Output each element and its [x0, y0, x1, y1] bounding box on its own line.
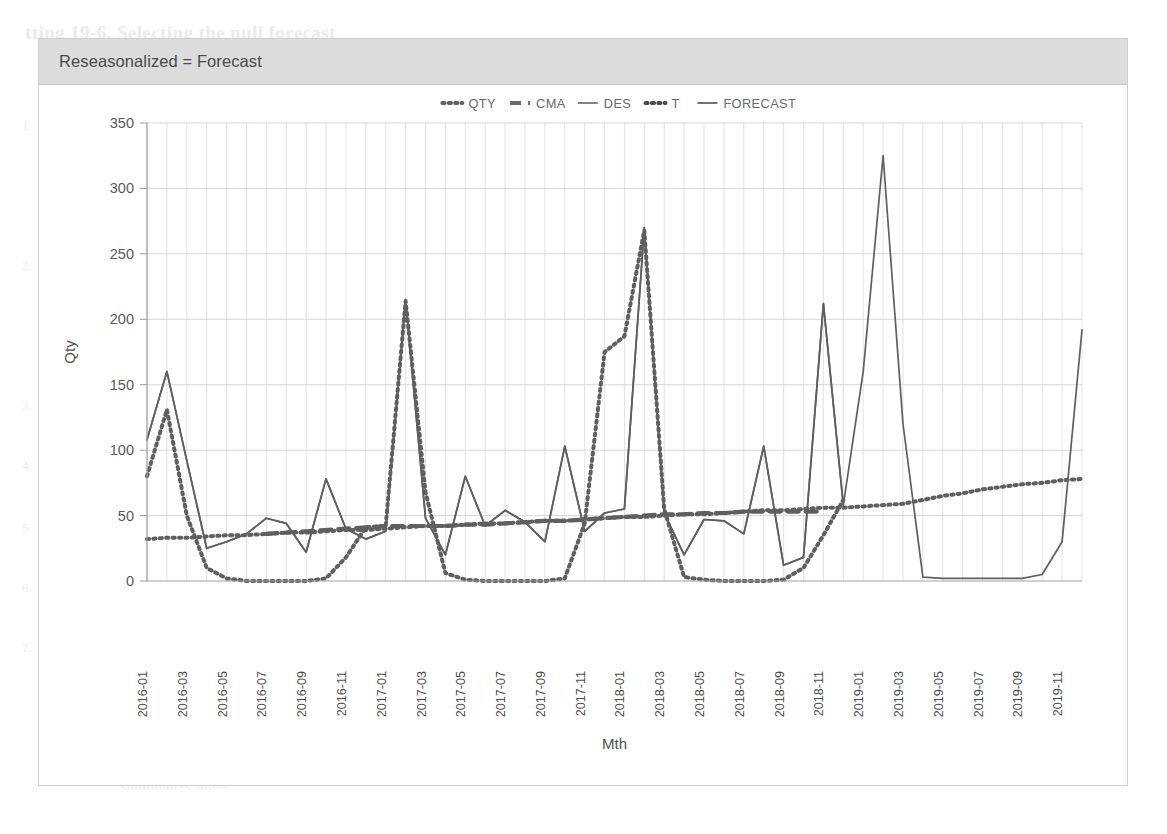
bleed-number: 7. [22, 640, 32, 656]
series-line-qty [147, 230, 843, 581]
x-tick-label: 2017-05 [454, 671, 468, 717]
x-tick-label: 2016-09 [295, 671, 309, 717]
x-tick-label: 2018-03 [653, 671, 667, 717]
x-tick-label: 2019-01 [852, 671, 866, 717]
chart-legend: QTYCMADESTFORECAST [442, 96, 796, 111]
series-line-des [147, 228, 843, 566]
legend-item-t[interactable]: T [646, 96, 680, 111]
chart-card: Reseasonalized = Forecast 05010015020025… [38, 38, 1128, 786]
legend-label: T [672, 96, 680, 111]
x-tick-label: 2018-11 [812, 671, 826, 716]
legend-item-forecast[interactable]: FORECAST [697, 96, 796, 111]
x-tick-label: 2018-01 [613, 671, 627, 717]
y-axis-tick-labels: 050100150200250300350 [110, 115, 134, 589]
x-tick-label: 2016-05 [216, 671, 230, 717]
x-tick-label: 2017-09 [534, 671, 548, 717]
x-axis-tick-labels: 2016-012016-032016-052016-072016-092016-… [136, 671, 1065, 717]
data-series-group [147, 156, 1082, 581]
x-tick-label: 2019-03 [892, 671, 906, 717]
x-tick-label: 2019-09 [1011, 671, 1025, 717]
legend-item-qty[interactable]: QTY [442, 96, 496, 111]
x-axis-title: Mth [602, 735, 627, 752]
y-tick-label: 0 [126, 573, 134, 589]
chart-card-header: Reseasonalized = Forecast [39, 39, 1127, 85]
bleed-number: 1. [22, 118, 32, 134]
chart-plot-container: 050100150200250300350 2016-012016-032016… [39, 85, 1127, 786]
x-tick-label: 2017-07 [494, 671, 508, 717]
x-tick-label: 2016-01 [136, 671, 150, 717]
legend-label: DES [604, 96, 632, 111]
legend-label: QTY [468, 96, 496, 111]
series-line-forecast [147, 156, 1082, 579]
y-tick-label: 350 [110, 115, 134, 131]
x-tick-label: 2018-07 [733, 671, 747, 717]
y-tick-label: 100 [110, 442, 134, 458]
x-tick-label: 2019-11 [1051, 671, 1065, 716]
x-tick-label: 2018-05 [693, 671, 707, 717]
bleed-number: 3. [22, 398, 32, 414]
horizontal-gridlines [147, 123, 1082, 516]
x-tick-label: 2016-03 [176, 671, 190, 717]
legend-item-des[interactable]: DES [578, 96, 632, 111]
bleed-number: 6. [22, 580, 32, 596]
y-tick-label: 250 [110, 246, 134, 262]
y-tick-label: 50 [118, 508, 134, 524]
x-tick-label: 2019-05 [932, 671, 946, 717]
line-chart: 050100150200250300350 2016-012016-032016… [39, 85, 1127, 785]
x-tick-label: 2017-01 [375, 671, 389, 717]
x-tick-label: 2017-03 [415, 671, 429, 717]
x-tick-label: 2017-11 [574, 671, 588, 716]
legend-item-cma[interactable]: CMA [510, 96, 566, 111]
x-tick-label: 2016-07 [255, 671, 269, 717]
y-axis-title: Qty [61, 340, 78, 364]
x-tick-label: 2018-09 [773, 671, 787, 717]
x-tick-label: 2016-11 [335, 671, 349, 716]
series-line-t [147, 479, 1082, 539]
y-tick-label: 300 [110, 180, 134, 196]
legend-label: CMA [536, 96, 566, 111]
vertical-gridlines [147, 123, 1082, 581]
bleed-number: 4. [22, 458, 32, 474]
y-tick-label: 150 [110, 377, 134, 393]
y-axis-ticks [140, 123, 147, 581]
chart-title: Reseasonalized = Forecast [59, 52, 262, 71]
x-tick-label: 2019-07 [972, 671, 986, 717]
y-tick-label: 200 [110, 311, 134, 327]
bleed-number: 2. [22, 258, 32, 274]
legend-label: FORECAST [723, 96, 796, 111]
bleed-number: 5. [22, 520, 32, 536]
